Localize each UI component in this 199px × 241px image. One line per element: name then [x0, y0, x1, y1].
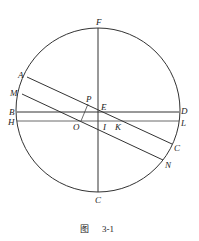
label-N: N [164, 160, 172, 170]
label-P: P [85, 94, 92, 104]
label-K: K [114, 122, 122, 132]
chord-A-C [27, 77, 172, 144]
label-H: H [7, 117, 15, 127]
caption-number: 3-1 [102, 224, 114, 234]
geometry-diagram: F A M B H P E O I K D L C N C 图 3-1 [0, 0, 199, 241]
label-A: A [17, 70, 24, 80]
label-L: L [180, 118, 186, 128]
chord-M-N [22, 94, 163, 160]
label-F: F [95, 17, 102, 27]
label-C-right: C [174, 143, 181, 153]
label-C-bottom: C [95, 195, 102, 205]
label-I: I [102, 122, 107, 132]
label-M: M [9, 88, 18, 98]
label-O: O [73, 122, 80, 132]
label-D: D [180, 106, 188, 116]
label-B: B [9, 107, 15, 117]
caption-prefix: 图 [80, 224, 89, 234]
label-E: E [100, 102, 107, 112]
